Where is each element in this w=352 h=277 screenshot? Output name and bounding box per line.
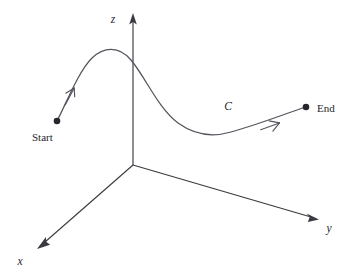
end-label: End bbox=[317, 102, 335, 114]
x-axis bbox=[37, 165, 133, 249]
curve-c-label: C bbox=[224, 100, 232, 112]
y-axis bbox=[133, 165, 319, 222]
z-axis-label: z bbox=[110, 13, 116, 25]
axes-group bbox=[37, 13, 319, 249]
start-point-dot bbox=[54, 118, 61, 125]
labels-group: z y x C Start End bbox=[16, 13, 335, 267]
vector-calculus-curve-diagram: z y x C Start End bbox=[0, 0, 352, 277]
x-axis-label: x bbox=[16, 255, 23, 267]
start-direction-arrow bbox=[61, 86, 78, 107]
start-label: Start bbox=[32, 131, 53, 143]
z-axis bbox=[129, 13, 137, 165]
curve-c-path bbox=[57, 49, 306, 135]
diagram-canvas: z y x C Start End bbox=[0, 0, 352, 277]
end-direction-arrow bbox=[259, 118, 282, 135]
curve-c-group bbox=[57, 49, 306, 135]
y-axis-line bbox=[133, 165, 311, 217]
y-axis-label: y bbox=[325, 222, 332, 235]
y-axis-arrowhead bbox=[307, 213, 319, 222]
x-axis-line bbox=[45, 165, 133, 242]
end-point-dot bbox=[303, 104, 310, 111]
